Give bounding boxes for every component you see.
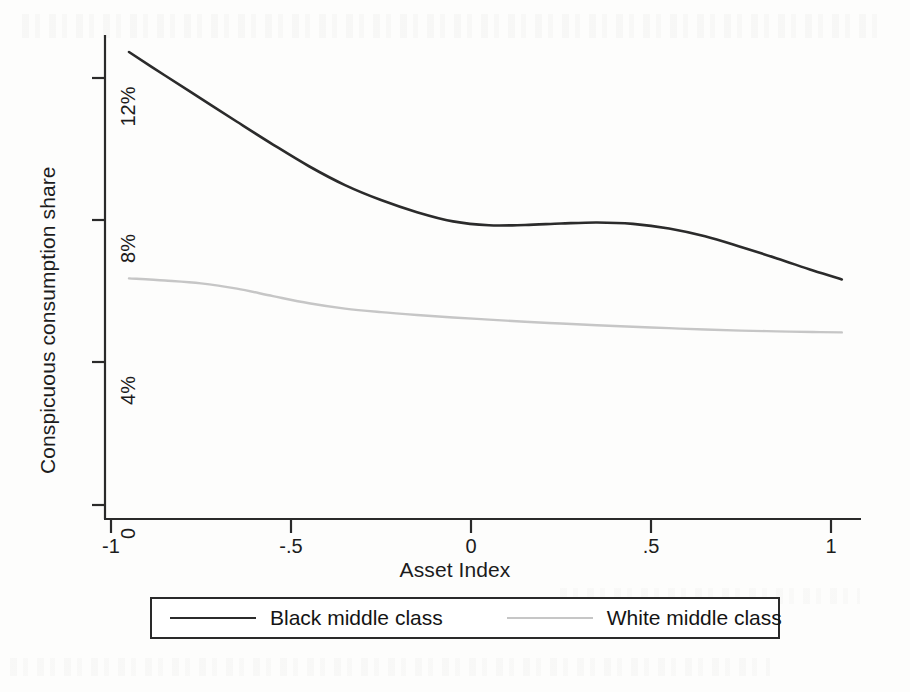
x-tick-label-neg1: -1 (76, 535, 146, 558)
series-line-black-middle-class (129, 52, 842, 279)
x-axis-title: Asset Index (0, 558, 910, 582)
y-tick-label-4: 4% (117, 358, 140, 424)
x-tick-label-neg05: -.5 (256, 535, 326, 558)
line-chart: 12% 8% 4% 0 -1 -.5 0 .5 1 Conspicuous co… (0, 0, 910, 692)
x-axis-ticks (111, 519, 831, 533)
legend-item-white-middle-class[interactable]: White middle class (507, 599, 782, 637)
x-tick-label-1: 1 (796, 535, 866, 558)
x-tick-label-0: 0 (436, 535, 506, 558)
x-tick-label-05: .5 (616, 535, 686, 558)
series-line-white-middle-class (129, 278, 842, 332)
y-tick-label-12: 12% (117, 74, 140, 140)
legend-label-black-middle-class: Black middle class (270, 606, 443, 630)
legend-line-swatch-icon (170, 617, 256, 619)
y-axis-ticks (92, 78, 105, 505)
legend-item-black-middle-class[interactable]: Black middle class (170, 599, 443, 637)
y-axis-title: Conspicuous consumption share (36, 166, 60, 474)
legend-label-white-middle-class: White middle class (607, 606, 782, 630)
chart-legend: Black middle class White middle class (150, 597, 780, 639)
y-tick-label-8: 8% (117, 216, 140, 282)
legend-line-swatch-icon (507, 617, 593, 619)
